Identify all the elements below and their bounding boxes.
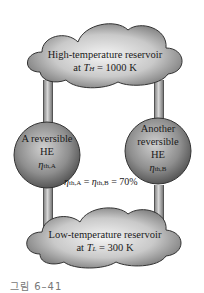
engine-a-line2: HE bbox=[14, 145, 80, 158]
eta-sub: th,A bbox=[43, 162, 55, 170]
high-reservoir-title: High-temperature reservoir bbox=[40, 48, 170, 61]
engine-b-line3: HE bbox=[125, 148, 191, 161]
high-reservoir-label: High-temperature reservoir at TH = 1000 … bbox=[40, 48, 170, 76]
engine-b-label: Another reversible HE ηth,B bbox=[125, 122, 191, 176]
efficiency-equation: ηth,A = ηth,B = 70% bbox=[64, 176, 138, 187]
efficiency-value: = 70% bbox=[109, 176, 138, 187]
low-reservoir-temp: at TL = 300 K bbox=[40, 241, 170, 256]
engine-b-line1: Another bbox=[125, 122, 191, 135]
at-text: at bbox=[73, 62, 83, 73]
engine-a-line1: A reversible bbox=[14, 132, 80, 145]
temp-value: = 300 K bbox=[96, 242, 133, 253]
eta-sub: th,B bbox=[155, 165, 167, 173]
eta-b-sub: th,B bbox=[97, 179, 109, 187]
engine-b-eta: ηth,B bbox=[125, 161, 191, 176]
engine-a-label: A reversible HE ηth,A bbox=[14, 132, 80, 173]
engine-a-eta: ηth,A bbox=[14, 158, 80, 173]
temp-value: = 1000 K bbox=[94, 62, 136, 73]
eta-a-sub: th,A bbox=[69, 179, 81, 187]
high-reservoir-temp: at TH = 1000 K bbox=[40, 61, 170, 76]
engine-b-line2: reversible bbox=[125, 135, 191, 148]
low-reservoir-title: Low-temperature reservoir bbox=[40, 228, 170, 241]
equals: = bbox=[81, 176, 92, 187]
figure-caption: 그림 6–41 bbox=[10, 278, 62, 293]
at-text: at bbox=[76, 242, 86, 253]
low-reservoir-label: Low-temperature reservoir at TL = 300 K bbox=[40, 228, 170, 256]
